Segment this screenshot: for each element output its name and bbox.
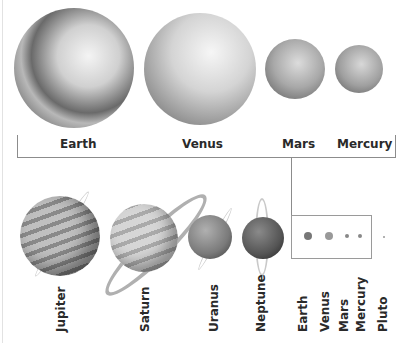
- bracket-left-tick: [17, 135, 18, 157]
- inset-earth-dot: [304, 232, 312, 240]
- inset-pluto-dot: [383, 236, 385, 238]
- label-mars: Mars: [282, 137, 315, 151]
- jupiter-planet: [20, 196, 100, 276]
- neptune-planet: [242, 217, 284, 259]
- earth-planet: [14, 8, 134, 128]
- label-mercury: Mercury: [337, 137, 392, 151]
- mars-planet: [265, 39, 325, 99]
- label-saturn: Saturn: [138, 287, 152, 332]
- bracket-right-tick: [395, 135, 396, 157]
- label-neptune: Neptune: [254, 274, 268, 332]
- inset-mercury-dot: [358, 234, 362, 238]
- inset-label-mercury: Mercury: [354, 277, 368, 332]
- label-earth: Earth: [60, 137, 97, 151]
- inset-mars-dot: [345, 234, 349, 238]
- inset-label-venus: Venus: [318, 291, 332, 332]
- left-border: [2, 0, 3, 343]
- inset-venus-dot: [325, 232, 333, 240]
- mercury-planet: [335, 45, 383, 93]
- inset-label-earth: Earth: [296, 296, 310, 333]
- inset-label-pluto: Pluto: [376, 297, 390, 332]
- label-jupiter: Jupiter: [54, 286, 68, 332]
- venus-planet: [144, 13, 256, 125]
- label-venus: Venus: [182, 137, 223, 151]
- uranus-planet: [188, 215, 232, 259]
- connector-line: [291, 157, 292, 215]
- saturn-planet: [110, 204, 178, 272]
- label-uranus: Uranus: [207, 284, 221, 332]
- bracket-bottom: [17, 157, 396, 158]
- inset-label-mars: Mars: [337, 299, 351, 332]
